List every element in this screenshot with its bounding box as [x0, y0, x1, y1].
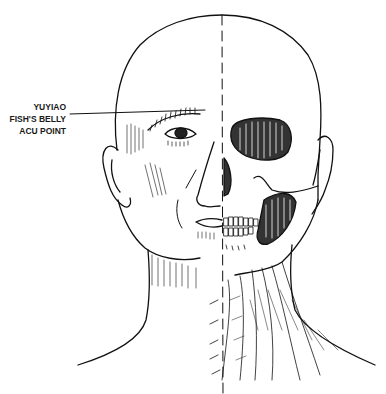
cranium-outline	[115, 15, 321, 200]
lips	[196, 219, 222, 228]
neck-right	[291, 245, 375, 365]
teeth-upper	[224, 217, 258, 226]
teeth-lower	[224, 227, 253, 236]
left-eyebrow	[148, 114, 200, 130]
left-ear	[103, 146, 131, 207]
neck-left	[78, 250, 149, 365]
neck-muscles	[222, 262, 320, 380]
midline-dashed	[222, 15, 223, 394]
head-anatomy-illustration	[0, 0, 386, 394]
left-jaw	[118, 200, 200, 260]
zygomatic-arch	[254, 176, 318, 192]
nose	[197, 142, 220, 207]
nasal-cavity	[224, 158, 231, 196]
